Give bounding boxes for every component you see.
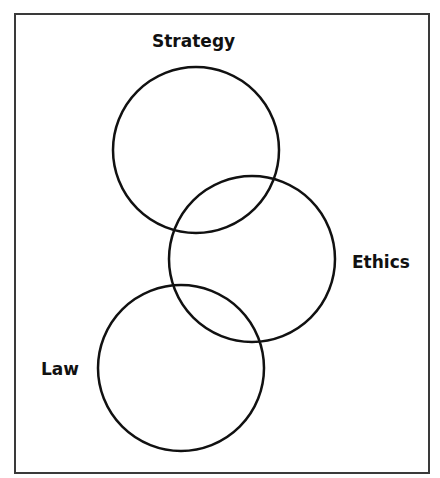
law-label: Law (41, 361, 79, 378)
law-circle (98, 285, 264, 451)
venn-diagram (0, 0, 440, 478)
strategy-label: Strategy (152, 33, 235, 50)
ethics-circle (169, 176, 335, 342)
ethics-label: Ethics (352, 254, 410, 271)
strategy-circle (113, 67, 279, 233)
